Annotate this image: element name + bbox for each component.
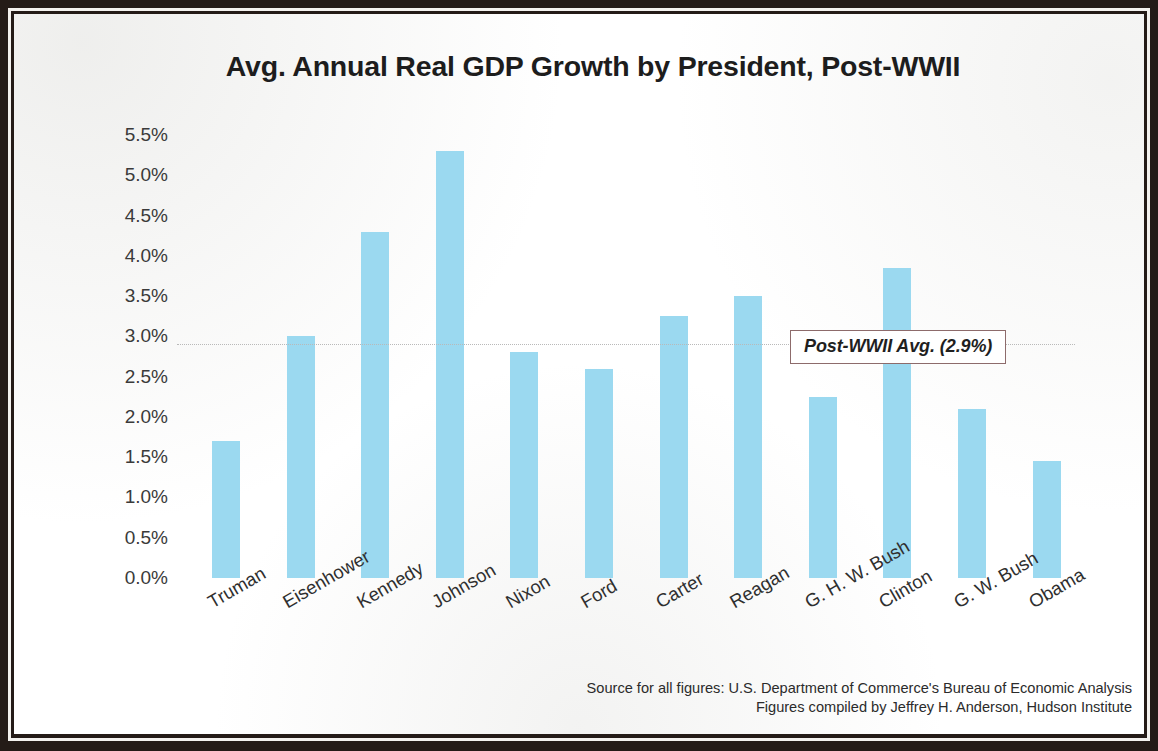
bar-reagan (734, 296, 762, 578)
source-line-2: Figures compiled by Jeffrey H. Anderson,… (587, 698, 1132, 718)
y-axis-tick-label: 2.5% (94, 366, 168, 388)
post-wwii-average-callout: Post-WWII Avg. (2.9%) (790, 330, 1006, 364)
y-axis-tick-label: 0.5% (94, 527, 168, 549)
bar-clinton (883, 268, 911, 578)
bar-nixon (510, 352, 538, 578)
source-line-1: Source for all figures: U.S. Department … (587, 679, 1132, 699)
bar-ford (585, 369, 613, 578)
scanned-page: Avg. Annual Real GDP Growth by President… (0, 0, 1158, 751)
bar-chart-plot-area: 5.5%5.0%4.5%4.0%3.5%3.0%2.5%2.0%1.5%1.0%… (14, 14, 1144, 734)
y-axis-tick-label: 1.5% (94, 446, 168, 468)
y-axis-tick-labels: 5.5%5.0%4.5%4.0%3.5%3.0%2.5%2.0%1.5%1.0%… (94, 14, 168, 734)
y-axis-tick-label: 5.0% (94, 164, 168, 186)
y-axis-tick-label: 4.0% (94, 245, 168, 267)
bar-g-h-w-bush (809, 397, 837, 578)
x-axis-label-ford: Ford (577, 575, 621, 613)
page-frame-inner: Avg. Annual Real GDP Growth by President… (14, 14, 1144, 734)
bar-carter (660, 316, 688, 578)
y-axis-tick-label: 3.0% (94, 325, 168, 347)
y-axis-tick-label: 5.5% (94, 124, 168, 146)
bar-eisenhower (287, 336, 315, 578)
bar-kennedy (361, 232, 389, 578)
y-axis-tick-label: 4.5% (94, 205, 168, 227)
y-axis-tick-label: 1.0% (94, 486, 168, 508)
source-note: Source for all figures: U.S. Department … (587, 679, 1132, 718)
y-axis-tick-label: 3.5% (94, 285, 168, 307)
bar-g-w-bush (958, 409, 986, 578)
bar-johnson (436, 151, 464, 578)
y-axis-tick-label: 0.0% (94, 567, 168, 589)
bar-truman (212, 441, 240, 578)
y-axis-tick-label: 2.0% (94, 406, 168, 428)
